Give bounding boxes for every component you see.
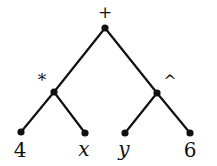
expression-tree: +*^4xy6 [0, 0, 217, 166]
edge-root-pow [105, 28, 157, 93]
label-four: 4 [14, 138, 27, 162]
label-six: 6 [184, 138, 197, 162]
label-pow: ^ [163, 72, 176, 91]
node-six [186, 129, 193, 136]
node-y [121, 129, 128, 136]
label-mul: * [38, 70, 47, 90]
edge-pow-six [157, 93, 190, 133]
edge-mul-x [54, 92, 85, 133]
edge-pow-y [125, 93, 157, 133]
label-root: + [98, 2, 112, 22]
node-four [17, 128, 24, 135]
node-mul [50, 88, 57, 95]
label-y: y [117, 137, 130, 161]
node-x [81, 129, 88, 136]
node-root [101, 24, 108, 31]
label-x: x [78, 137, 89, 161]
edge-mul-four [21, 92, 54, 132]
node-pow [153, 89, 160, 96]
edge-root-mul [54, 28, 105, 92]
